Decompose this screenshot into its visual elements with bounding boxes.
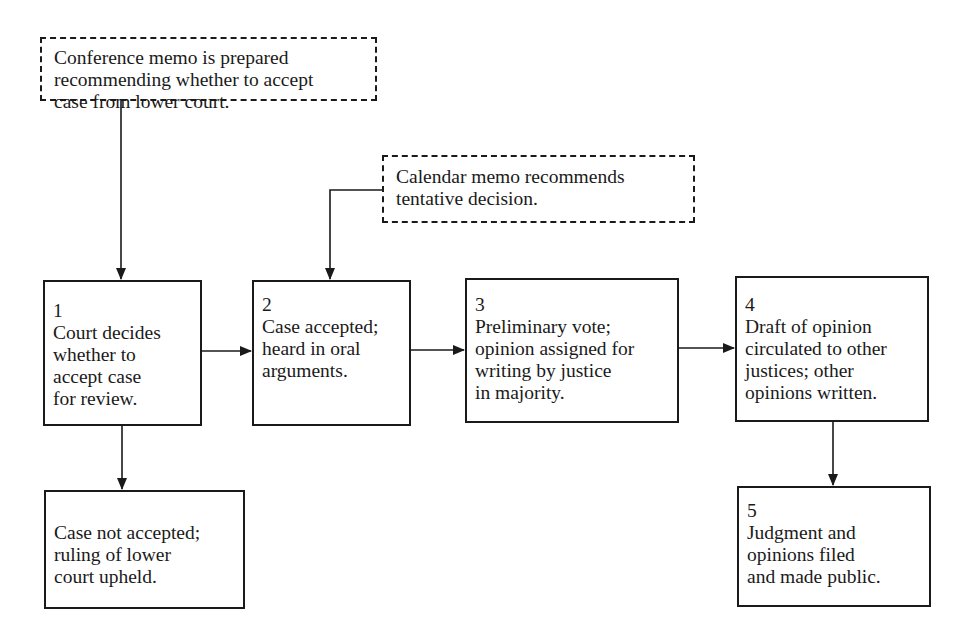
conference-memo-note: Conference memo is prepared recommending… — [40, 37, 377, 101]
step-1-box: 1 Court decides whether to accept case f… — [43, 280, 202, 426]
step-4-text: Draft of opinion circulated to other jus… — [745, 316, 921, 404]
arrow-calendar-to-step2 — [330, 190, 382, 279]
step-3-box: 3 Preliminary vote; opinion assigned for… — [465, 278, 679, 423]
step-3-text: Preliminary vote; opinion assigned for w… — [475, 316, 671, 404]
step-1-text: Court decides whether to accept case for… — [53, 322, 194, 410]
not-accepted-text: Case not accepted; ruling of lower court… — [54, 522, 237, 588]
calendar-memo-text: Calendar memo recommends tentative decis… — [396, 166, 687, 210]
conference-memo-text: Conference memo is prepared recommending… — [54, 47, 369, 113]
step-5-text: Judgment and opinions filed and made pub… — [747, 522, 923, 588]
step-5-number: 5 — [747, 500, 923, 522]
step-3-number: 3 — [475, 294, 671, 316]
step-4-number: 4 — [745, 294, 921, 316]
step-4-box: 4 Draft of opinion circulated to other j… — [735, 276, 929, 422]
step-2-text: Case accepted; heard in oral arguments. — [262, 316, 403, 382]
step-2-box: 2 Case accepted; heard in oral arguments… — [252, 280, 411, 426]
step-5-box: 5 Judgment and opinions filed and made p… — [737, 486, 931, 607]
step-1-number: 1 — [53, 300, 194, 322]
not-accepted-box: Case not accepted; ruling of lower court… — [44, 490, 245, 609]
calendar-memo-note: Calendar memo recommends tentative decis… — [382, 155, 695, 223]
step-2-number: 2 — [262, 294, 403, 316]
